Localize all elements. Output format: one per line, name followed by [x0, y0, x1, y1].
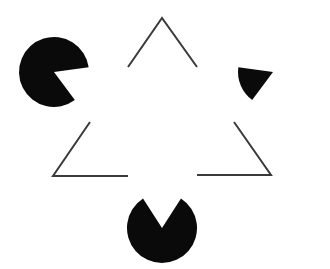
pacman-bottom	[127, 199, 197, 263]
kanizsa-figure: Kanizsa triangle illusion	[0, 0, 330, 269]
pacman-top-right	[238, 67, 273, 100]
illusion-canvas	[0, 0, 330, 269]
outline-corner-top-apex	[128, 18, 197, 67]
outline-corner-bottom-left	[53, 122, 128, 176]
outline-corner-bottom-right	[197, 122, 271, 175]
pacman-group	[19, 37, 273, 263]
pacman-top-left	[19, 37, 89, 107]
triangle-outline-group	[53, 18, 271, 176]
